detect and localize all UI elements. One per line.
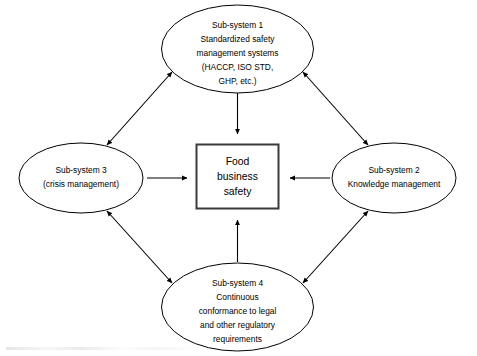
sub-system-2-ellipse[interactable]: [332, 143, 456, 213]
sub-system-1-line-3: management systems: [197, 48, 279, 58]
center-label-line-3: safety: [224, 186, 253, 197]
sub-system-4-line-1: Sub-system 4: [212, 278, 264, 288]
center-node-food-business-safety[interactable]: Food business safety: [197, 145, 279, 209]
sub-system-4-line-2: Continuous: [216, 292, 258, 302]
node-sub-system-1[interactable]: Sub-system 1 Standardized safety managem…: [162, 5, 314, 93]
node-sub-system-2[interactable]: Sub-system 2 Knowledge management: [332, 143, 456, 213]
food-business-safety-diagram: Sub-system 1 Standardized safety managem…: [0, 0, 477, 356]
sub-system-3-line-2: (crisis management): [43, 179, 119, 189]
sub-system-4-line-4: and other regulatory: [200, 320, 276, 330]
connector-bottom-right-diagonal: [303, 211, 368, 283]
sub-system-4-line-5: requirements: [213, 334, 262, 344]
center-label-line-2: business: [217, 171, 258, 182]
sub-system-3-ellipse[interactable]: [19, 143, 143, 213]
sub-system-2-line-2: Knowledge management: [348, 179, 441, 189]
node-sub-system-4[interactable]: Sub-system 4 Continuous conformance to l…: [162, 263, 314, 351]
sub-system-1-line-4: (HACCP, ISO STD,: [202, 62, 274, 72]
sub-system-1-line-5: GHP, etc.): [218, 76, 256, 86]
connector-top-left-diagonal: [107, 72, 172, 145]
diagram-canvas: Sub-system 1 Standardized safety managem…: [0, 0, 477, 356]
node-sub-system-3[interactable]: Sub-system 3 (crisis management): [19, 143, 143, 213]
center-label-line-1: Food: [226, 156, 250, 167]
sub-system-1-line-1: Sub-system 1: [212, 20, 264, 30]
connector-bottom-left-diagonal: [107, 211, 172, 283]
sub-system-2-line-1: Sub-system 2: [368, 165, 420, 175]
sub-system-3-line-1: Sub-system 3: [55, 165, 107, 175]
sub-system-4-line-3: conformance to legal: [199, 306, 277, 316]
sub-system-1-line-2: Standardized safety: [200, 34, 275, 44]
connector-top-right-diagonal: [303, 72, 368, 145]
